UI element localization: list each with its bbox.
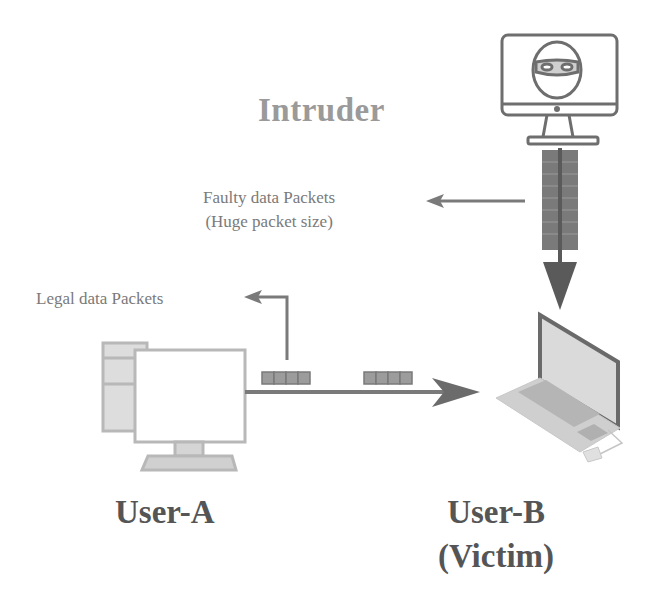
intruder-monitor-icon (502, 35, 617, 144)
legal-packets-1 (262, 372, 310, 384)
faulty-packet-stream (542, 148, 578, 270)
user-a-label: User-A (115, 490, 215, 534)
user-b-role: (Victim) (438, 534, 554, 578)
legal-pointer-arrow-icon (244, 290, 287, 360)
laptop-icon (496, 315, 622, 462)
user-b-label: User-B (Victim) (438, 490, 554, 578)
legal-packets-2 (364, 372, 412, 384)
down-arrowhead-icon (543, 262, 577, 310)
faulty-packets-label: Faulty data Packets (Huge packet size) (203, 186, 335, 234)
intruder-label: Intruder (258, 92, 385, 129)
user-b-name: User-B (438, 490, 554, 534)
desktop-computer-icon (103, 343, 245, 470)
faulty-label-line1: Faulty data Packets (203, 186, 335, 210)
faulty-label-line2: (Huge packet size) (203, 210, 335, 234)
legal-packets-label: Legal data Packets (36, 287, 163, 311)
faulty-pointer-arrow-icon (426, 194, 525, 208)
